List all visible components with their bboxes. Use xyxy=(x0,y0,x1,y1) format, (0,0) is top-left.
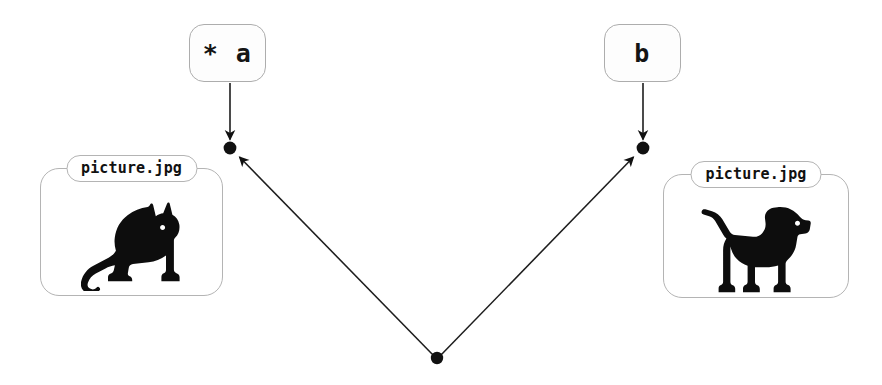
diagram-canvas: * a b picture.jpg picture.jpg xyxy=(0,0,882,385)
dog-art-area xyxy=(664,197,848,293)
cat-art-area xyxy=(41,195,222,291)
cat-silhouette-icon xyxy=(81,199,183,291)
shared-origin-node xyxy=(431,352,443,364)
reference-node-a xyxy=(224,142,237,155)
dog-silhouette-icon xyxy=(701,203,811,293)
variable-box-a[interactable]: * a xyxy=(189,24,266,82)
object-card-cat[interactable]: picture.jpg xyxy=(40,168,223,296)
variable-label-b: b xyxy=(634,39,651,68)
edge-origin-to-node-b xyxy=(440,157,634,356)
object-card-dog[interactable]: picture.jpg xyxy=(663,174,849,298)
reference-node-b xyxy=(637,142,650,155)
object-card-cat-filename: picture.jpg xyxy=(66,155,197,182)
variable-label-a: * a xyxy=(203,39,253,68)
variable-box-b[interactable]: b xyxy=(604,24,681,82)
object-card-dog-filename: picture.jpg xyxy=(691,161,822,188)
edge-origin-to-node-a xyxy=(240,157,435,356)
